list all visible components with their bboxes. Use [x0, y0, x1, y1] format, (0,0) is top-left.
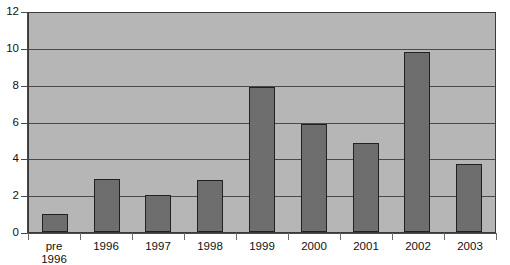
x-axis-tick	[236, 233, 237, 240]
x-axis-tick	[132, 233, 133, 240]
y-axis-tick-label: 6	[0, 117, 19, 129]
bar	[42, 214, 68, 232]
bar-slot	[184, 13, 236, 232]
x-axis-tick	[184, 233, 185, 240]
x-axis-tick	[80, 233, 81, 240]
x-axis-tick-label: 1996	[80, 240, 132, 265]
x-axis-tick-labels: pre 199619961997199819992000200120022003	[28, 240, 496, 265]
y-axis-tick-label: 2	[0, 190, 19, 202]
y-axis-tick-label: 10	[0, 43, 19, 55]
bar-slot	[81, 13, 133, 232]
y-axis-tick-label: 8	[0, 80, 19, 92]
x-axis-line	[27, 233, 497, 234]
x-axis-tick-label: 1997	[132, 240, 184, 265]
bar-slot	[288, 13, 340, 232]
bar-series	[29, 13, 495, 232]
x-axis-tick-label: 2000	[288, 240, 340, 265]
bar	[249, 87, 275, 232]
x-axis-tick-label: 1998	[184, 240, 236, 265]
plot-area-wrapper	[28, 12, 496, 233]
y-axis-tick-label: 4	[0, 153, 19, 165]
bar	[353, 143, 379, 232]
x-axis-tick	[288, 233, 289, 240]
x-axis-tick-label: 2002	[392, 240, 444, 265]
bar	[94, 179, 120, 232]
bar	[197, 180, 223, 232]
bar-slot	[236, 13, 288, 232]
bar-slot	[133, 13, 185, 232]
bar	[145, 195, 171, 232]
y-axis-tick-label: 12	[0, 6, 19, 18]
bar	[404, 52, 430, 232]
bar-slot	[443, 13, 495, 232]
x-axis-tick-label: 2003	[444, 240, 496, 265]
x-axis-tick-label: pre 1996	[28, 240, 80, 265]
x-axis-tick	[444, 233, 445, 240]
y-axis-tick-label: 0	[0, 227, 19, 239]
x-axis-tick	[28, 233, 29, 240]
bar-slot	[391, 13, 443, 232]
plot-area	[28, 12, 496, 233]
bar	[301, 124, 327, 232]
bar-chart: 024681012 pre 19961996199719981999200020…	[0, 0, 510, 265]
x-axis-tick	[392, 233, 393, 240]
bar	[456, 164, 482, 232]
x-axis-tick	[340, 233, 341, 240]
x-axis-tick-label: 2001	[340, 240, 392, 265]
x-axis-tick	[496, 233, 497, 240]
x-axis-tick-label: 1999	[236, 240, 288, 265]
bar-slot	[29, 13, 81, 232]
bar-slot	[340, 13, 392, 232]
